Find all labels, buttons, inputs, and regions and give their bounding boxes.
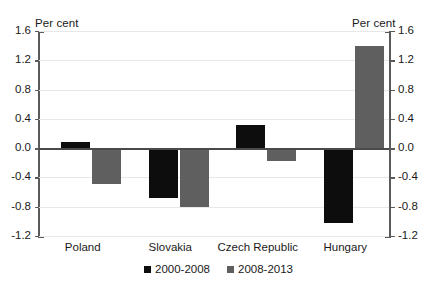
- axis-tick-right: [391, 236, 395, 237]
- bar: [355, 46, 384, 149]
- plot-area: [39, 31, 389, 236]
- legend-label: 2000-2008: [155, 264, 210, 276]
- bar-group: [127, 31, 215, 236]
- axis-tick-label-left: -0.8: [11, 201, 31, 213]
- axis-tick-right: [391, 31, 395, 32]
- bar: [149, 148, 178, 198]
- left-axis-unit-label: Per cent: [35, 17, 79, 29]
- axis-tick-right: [391, 60, 395, 61]
- axis-tick-left: [35, 90, 39, 91]
- axis-tick-left: [35, 119, 39, 120]
- bar: [236, 125, 265, 148]
- axis-tick-label-left: 0.8: [15, 84, 31, 96]
- axis-tick-right: [391, 177, 395, 178]
- axis-tick-right: [391, 90, 395, 91]
- legend-entry: 2000-2008: [144, 264, 210, 276]
- legend-entry: 2008-2013: [227, 264, 293, 276]
- legend-label: 2008-2013: [238, 264, 293, 276]
- right-axis-unit-label: Per cent: [352, 17, 396, 29]
- axis-tick-label-left: -0.4: [11, 171, 31, 183]
- axis-tick-label-right: 0.0: [398, 142, 414, 154]
- axis-tick-left: [35, 148, 39, 149]
- bar-group: [302, 31, 390, 236]
- legend-swatch-icon: [144, 266, 151, 273]
- axis-tick-label-left: 0.0: [15, 142, 31, 154]
- category-label: Slovakia: [127, 241, 215, 253]
- axis-tick-label-right: 1.6: [398, 25, 414, 37]
- zero-baseline: [39, 148, 389, 150]
- right-axis-spine: [389, 31, 391, 236]
- axis-tick-label-left: 1.2: [15, 54, 31, 66]
- axis-tick-label-right: 0.8: [398, 84, 414, 96]
- legend-swatch-icon: [227, 266, 234, 273]
- axis-tick-right: [391, 207, 395, 208]
- axis-tick-label-left: 0.4: [15, 113, 31, 125]
- category-label: Poland: [39, 241, 127, 253]
- axis-tick-label-right: -1.2: [398, 230, 418, 242]
- axis-tick-right: [391, 148, 395, 149]
- category-label: Czech Republic: [214, 241, 302, 253]
- bar: [267, 148, 296, 161]
- bar-group: [39, 31, 127, 236]
- category-label: Hungary: [302, 241, 390, 253]
- axis-tick-label-right: -0.8: [398, 201, 418, 213]
- axis-tick-label-left: -1.2: [11, 230, 31, 242]
- bar: [92, 148, 121, 184]
- chart-legend: 2000-20082008-2013: [0, 264, 437, 276]
- axis-tick-left: [35, 60, 39, 61]
- bar-group: [214, 31, 302, 236]
- axis-tick-label-right: -0.4: [398, 171, 418, 183]
- axis-tick-label-right: 0.4: [398, 113, 414, 125]
- gridline: [39, 236, 389, 237]
- axis-tick-right: [391, 119, 395, 120]
- axis-tick-label-right: 1.2: [398, 54, 414, 66]
- axis-tick-label-left: 1.6: [15, 25, 31, 37]
- bar: [324, 148, 353, 223]
- axis-tick-left: [35, 177, 39, 178]
- bar: [180, 148, 209, 207]
- bar-chart: Per cent Per cent 1.61.61.21.20.80.80.40…: [0, 0, 437, 287]
- axis-tick-left: [35, 207, 39, 208]
